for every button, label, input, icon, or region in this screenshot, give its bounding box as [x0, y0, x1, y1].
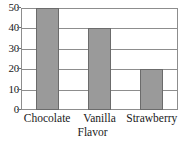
bar-chart: 01020304050 ChocolateVanillaStrawberry F… — [0, 0, 185, 142]
x-axis-tick-label: Strawberry — [112, 111, 185, 125]
x-axis-labels: ChocolateVanillaStrawberry — [0, 111, 185, 126]
x-axis-title: Flavor — [0, 125, 185, 139]
bar — [140, 69, 163, 110]
bar — [88, 28, 111, 110]
bars-layer — [21, 8, 178, 110]
bar — [36, 8, 59, 110]
